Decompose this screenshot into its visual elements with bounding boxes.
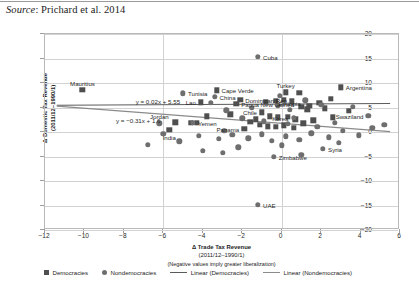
point-label: Zimbabwe [279,153,307,160]
data-point-democracy [338,85,343,90]
point-label: UAE [263,201,276,208]
x-tick-label: −2 [226,232,256,239]
trendline-equation: y = 0.02x + 5.55 [136,98,180,105]
data-point-democracy [301,120,306,125]
x-tick-label: −10 [68,232,98,239]
data-point-nondemocracy [208,100,213,105]
data-point-nondemocracy [297,137,302,142]
legend-item[interactable]: Linear (Democracies) [170,269,249,276]
data-point-democracy [234,101,239,106]
source-label: Source [6,4,35,15]
point-label: Turkey [276,82,294,89]
point-label: Cuba [263,53,278,60]
point-label: India [163,134,176,141]
x-tick-label: −6 [147,232,177,239]
data-point-nondemocracy [200,148,205,153]
point-label: Argentina [346,84,372,91]
data-point-democracy [259,110,264,115]
data-point-nondemocracy [212,94,217,99]
gridline-horizontal [45,206,398,207]
legend-label: Linear (Democracies) [191,269,249,276]
gridline-horizontal [45,59,398,60]
data-point-nondemocracy [314,124,319,129]
point-label: Tunisia [188,90,207,97]
data-point-democracy [283,90,288,95]
data-point-nondemocracy [240,116,245,121]
data-point-nondemocracy [332,120,337,125]
data-point-nondemocracy [245,136,250,141]
gridline-horizontal [45,34,398,35]
x-tick-label: 2 [305,232,335,239]
legend-item[interactable]: Linear (Nondemocracies) [263,269,352,276]
data-point-democracy [291,125,296,130]
data-point-democracy [328,96,333,101]
legend-item[interactable]: Nondemocracies [102,269,156,276]
data-point-democracy [265,123,270,128]
x-axis-title-main: Δ Trade Tax Revenue [192,244,251,250]
point-label: Lao [186,99,196,106]
data-point-nondemocracy [145,142,150,147]
data-point-democracy [241,126,246,131]
data-point-nondemocracy [309,131,314,136]
gridline-vertical [282,34,283,228]
point-label: China [220,93,236,100]
x-axis-title: Δ Trade Tax Revenue (2011/12–1990/1) (Ne… [44,243,399,268]
legend-square-icon [44,270,49,275]
data-point-democracy [228,112,233,117]
source-caption: Source: Prichard et al. 2014 [6,4,125,15]
data-point-nondemocracy [230,132,235,137]
point-label: Mauritius [70,79,95,86]
data-point-nondemocracy [176,139,181,144]
legend-item[interactable]: Democracies [44,269,88,276]
data-point-democracy [297,90,302,95]
gridline-horizontal [45,181,398,182]
data-point-nondemocracy [320,146,325,151]
point-label: Swaziland [336,112,364,119]
data-point-nondemocracy [350,104,355,109]
x-tick-label: 0 [266,232,296,239]
data-point-nondemocracy [283,134,288,139]
data-point-nondemocracy [269,138,274,143]
gridline-horizontal [45,157,398,158]
x-tick-label: 4 [345,232,375,239]
data-point-nondemocracy [180,91,185,96]
data-point-democracy [214,88,219,93]
legend-circle-icon [102,270,107,275]
data-point-democracy [247,119,252,124]
chart-legend: DemocraciesNondemocraciesLinear (Democra… [44,269,404,276]
x-tick-label: −4 [187,232,217,239]
data-point-nondemocracy [216,136,221,141]
legend-line-icon [170,272,187,273]
trendline-equation: y = −0.31x + 1.6 [116,117,161,124]
x-axis-title-note: (Negative values imply greater liberaliz… [167,261,275,267]
data-point-democracy [305,107,310,112]
data-point-democracy [172,119,177,124]
data-point-nondemocracy [236,144,241,149]
x-tick-label: −12 [29,232,59,239]
data-point-democracy [198,99,203,104]
x-tick-label: −8 [108,232,138,239]
data-point-democracy [167,127,172,132]
data-point-nondemocracy [271,154,276,159]
point-label: Syria [328,145,342,152]
legend-line-nd-icon [263,272,280,273]
data-point-nondemocracy [259,132,264,137]
figure-scatter-tax-revenue: Source: Prichard et al. 2014 Δ Domestic … [0,0,419,287]
data-point-nondemocracy [356,133,361,138]
gridline-horizontal [45,230,398,231]
legend-label: Democracies [53,269,89,276]
data-point-nondemocracy [366,113,371,118]
data-point-democracy [273,124,278,129]
x-tick-mark [399,229,400,233]
data-point-nondemocracy [326,135,331,140]
point-label: Ethiopia [279,99,301,106]
source-text: : Prichard et al. 2014 [35,4,125,15]
data-point-democracy [322,106,327,111]
data-point-nondemocracy [370,125,375,130]
caption-divider [0,1,419,2]
x-axis-title-sub: (2011/12–1990/1) [198,252,244,258]
point-label: Panama [216,126,239,133]
legend-label: Linear (Nondemocracies) [284,269,352,276]
data-point-nondemocracy [382,122,387,127]
trendline [57,104,390,106]
